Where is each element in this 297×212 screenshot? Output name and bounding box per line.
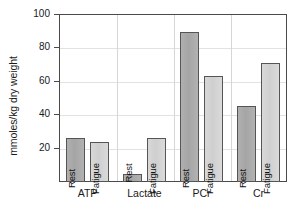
bar-lactate-fatigue: Fatigue xyxy=(147,138,166,182)
y-tick-label-100: 100 xyxy=(18,9,50,19)
x-category-pcr: PCr xyxy=(173,188,230,199)
y-tick-label-60: 60 xyxy=(18,76,50,86)
y-tick-label-20: 20 xyxy=(18,143,50,153)
bar-lactate-rest: Rest xyxy=(123,174,142,182)
y-tick-label-40: 40 xyxy=(18,109,50,119)
x-axis-category-labels: ATP Lactate PCr Cr xyxy=(59,188,287,199)
bar-pcr-fatigue: Fatigue xyxy=(204,76,223,182)
y-axis-title: mmoles/kg dry weight xyxy=(0,0,26,212)
x-category-cr: Cr xyxy=(230,188,287,199)
bar-cr-rest: Rest xyxy=(237,106,256,182)
bar-label-lactate-rest: Rest xyxy=(123,163,133,182)
x-category-atp: ATP xyxy=(59,188,116,199)
bar-cr-fatigue: Fatigue xyxy=(261,63,280,182)
bar-group-lactate: Rest Fatigue xyxy=(116,14,173,182)
bar-group-atp: Rest Fatigue xyxy=(59,14,116,182)
bar-groups: Rest Fatigue Rest Fatigue Rest Fatigue xyxy=(59,14,287,182)
bar-label-cr-rest: Rest xyxy=(237,168,247,187)
x-category-lactate: Lactate xyxy=(116,188,173,199)
bar-label-pcr-rest: Rest xyxy=(180,168,190,187)
bar-atp-fatigue: Fatigue xyxy=(90,142,109,182)
bar-atp-rest: Rest xyxy=(66,138,85,182)
bar-label-atp-rest: Rest xyxy=(66,168,76,187)
bar-pcr-rest: Rest xyxy=(180,32,199,182)
bar-group-pcr: Rest Fatigue xyxy=(173,14,230,182)
y-tick-label-80: 80 xyxy=(18,42,50,52)
bar-chart-figure: mmoles/kg dry weight 100 80 60 40 20 Res… xyxy=(0,0,297,212)
bar-group-cr: Rest Fatigue xyxy=(230,14,287,182)
